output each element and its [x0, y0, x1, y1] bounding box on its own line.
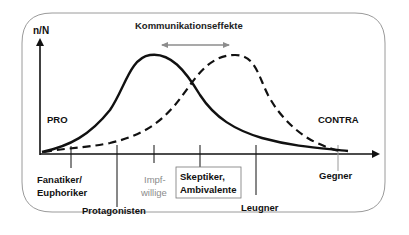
solid-distribution-curve	[42, 55, 348, 152]
category-protagonisten: Protagonisten	[82, 205, 146, 216]
category-fanatiker-line2: Euphoriker	[37, 187, 87, 198]
y-axis-label: n/N	[33, 25, 49, 36]
communication-effects-label: Kommunikationseffekte	[135, 20, 243, 31]
category-skeptiker-line1: Skeptiker,	[180, 171, 225, 182]
pro-label: PRO	[47, 114, 68, 125]
dashed-distribution-curve	[44, 55, 342, 152]
category-impfwillige-line1: Impf-	[144, 174, 166, 185]
category-impfwillige-line2: willige	[140, 187, 167, 198]
category-fanatiker-line1: Fanatiker/	[37, 174, 82, 185]
category-leugner: Leugner	[241, 202, 279, 213]
category-gegner: Gegner	[319, 170, 353, 181]
diagram-canvas: n/N Kommunikationseffekte PRO CONTRA Fan…	[0, 0, 409, 235]
category-skeptiker-line2: Ambivalente	[180, 184, 237, 195]
contra-label: CONTRA	[318, 114, 359, 125]
